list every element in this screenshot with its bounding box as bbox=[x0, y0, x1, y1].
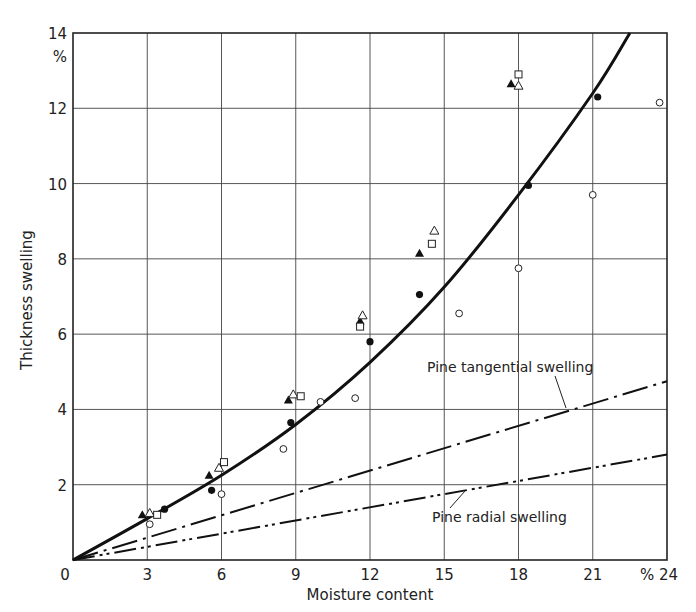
x-axis-tick-labels: 036912151821% 24 bbox=[60, 566, 678, 584]
open-triangle-marker bbox=[514, 81, 523, 89]
x-tick-label: 0 bbox=[60, 566, 70, 584]
y-tick-label: 8 bbox=[57, 251, 67, 269]
x-tick-label: 9 bbox=[291, 566, 301, 584]
y-tick-label: 10 bbox=[48, 176, 67, 194]
filled-triangle-marker bbox=[415, 249, 424, 257]
open-circle-marker bbox=[352, 395, 359, 402]
open-circle-marker bbox=[146, 521, 153, 528]
open-square-marker bbox=[297, 393, 304, 400]
open-circle-marker bbox=[218, 491, 225, 498]
y-unit-label: % bbox=[53, 48, 67, 66]
y-tick-label: 2 bbox=[57, 477, 67, 495]
tangential-leader-line bbox=[555, 376, 566, 408]
x-tick-label: 21 bbox=[583, 566, 602, 584]
filled-circle-marker bbox=[161, 506, 168, 513]
y-axis-label: Thickness swelling bbox=[18, 230, 36, 371]
filled-circle-marker bbox=[416, 291, 423, 298]
open-square-marker bbox=[428, 240, 435, 247]
x-tick-label: 12 bbox=[360, 566, 379, 584]
y-tick-label: 4 bbox=[57, 401, 67, 419]
filled-triangle-marker bbox=[138, 510, 147, 518]
open-triangle-marker bbox=[430, 226, 439, 234]
open-circle-marker bbox=[656, 99, 663, 106]
open-square-marker bbox=[220, 459, 227, 466]
radial-annotation: Pine radial swelling bbox=[432, 509, 567, 525]
y-tick-label: 12 bbox=[48, 100, 67, 118]
filled-triangle-marker bbox=[205, 471, 214, 479]
filled-circle-marker bbox=[366, 338, 373, 345]
tangential-annotation: Pine tangential swelling bbox=[427, 359, 593, 375]
fitted-curve-line bbox=[73, 33, 630, 560]
open-circle-marker bbox=[317, 399, 324, 406]
open-triangle-marker bbox=[145, 508, 154, 516]
x-tick-label: 18 bbox=[509, 566, 528, 584]
open-square-marker bbox=[515, 71, 522, 78]
open-square-marker bbox=[154, 511, 161, 518]
thickness-swelling-chart: 036912151821% 24 2468101214 % Moisture c… bbox=[0, 0, 696, 612]
filled-circle-marker bbox=[208, 487, 215, 494]
open-triangle-marker bbox=[289, 390, 298, 398]
x-tick-label: 3 bbox=[142, 566, 152, 584]
y-axis-tick-labels: 2468101214 bbox=[48, 25, 67, 495]
filled-circle-marker bbox=[525, 182, 532, 189]
filled-circle-marker bbox=[287, 419, 294, 426]
series-markers bbox=[138, 71, 663, 528]
annotations: Pine tangential swelling Pine radial swe… bbox=[427, 359, 593, 525]
open-circle-marker bbox=[589, 191, 596, 198]
open-circle-marker bbox=[515, 265, 522, 272]
y-tick-label: 6 bbox=[57, 326, 67, 344]
filled-triangle-marker bbox=[507, 79, 516, 87]
y-tick-label: 14 bbox=[48, 25, 67, 43]
x-tick-label: % 24 bbox=[640, 566, 678, 584]
x-tick-label: 15 bbox=[435, 566, 454, 584]
x-tick-label: 6 bbox=[217, 566, 227, 584]
x-axis-label: Moisture content bbox=[307, 586, 434, 604]
open-square-marker bbox=[357, 323, 364, 330]
open-circle-marker bbox=[456, 310, 463, 317]
open-triangle-marker bbox=[358, 311, 367, 319]
open-circle-marker bbox=[280, 446, 287, 453]
filled-circle-marker bbox=[594, 93, 601, 100]
